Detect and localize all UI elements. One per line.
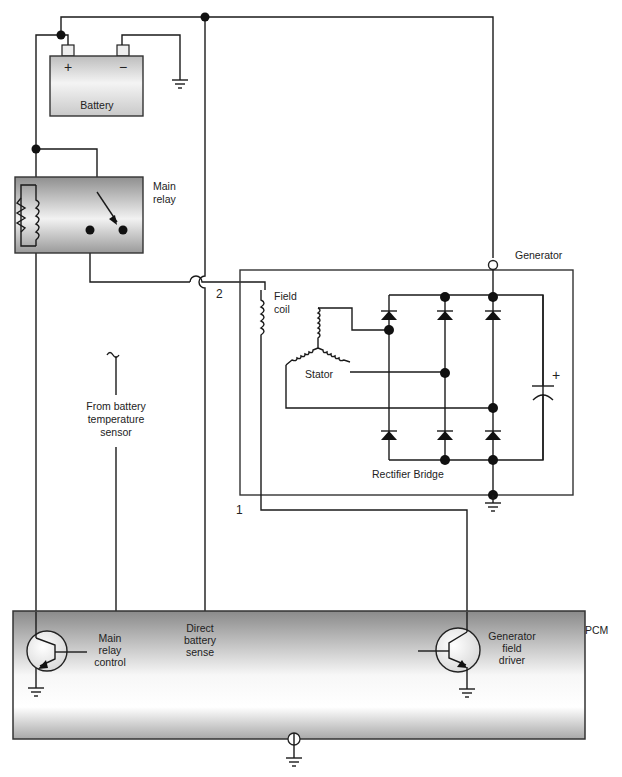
diode-icon — [437, 431, 453, 440]
direct-battery-sense-label-line2: battery — [184, 634, 217, 646]
diode-icon — [485, 431, 501, 440]
diode-icon — [381, 431, 397, 440]
junction-dot — [201, 13, 210, 22]
pcm-ground-icon — [286, 733, 302, 766]
relay-body — [15, 177, 143, 253]
generator-housing — [240, 270, 573, 495]
temp-sensor-label-line2: temperature — [88, 413, 145, 425]
generator: Generator 2 1 Field coil Stator — [216, 249, 573, 612]
capacitor-icon: + — [532, 295, 560, 460]
relay-contact — [119, 226, 128, 235]
diode-icon — [437, 311, 453, 320]
relay-contact — [86, 226, 95, 235]
generator-output-terminal[interactable] — [489, 261, 498, 270]
junction-dot — [32, 145, 41, 154]
stator-label: Stator — [305, 368, 334, 380]
pcm-module: PCM Main relay control Direct battery se… — [13, 611, 608, 766]
generator-ground-icon — [485, 495, 501, 511]
field-coil-label-line1: Field — [274, 290, 297, 302]
rectifier-bridge-label: Rectifier Bridge — [372, 468, 444, 480]
main-relay-control-label-line1: Main — [99, 632, 122, 644]
diode-icon — [485, 311, 501, 320]
junction-dot — [57, 31, 66, 40]
main-relay-label-line1: Main — [153, 180, 176, 192]
generator-field-driver-label-line2: field — [502, 642, 521, 654]
battery-positive-terminal — [62, 45, 74, 56]
pcm-label: PCM — [585, 624, 608, 636]
rectifier-bridge — [381, 270, 543, 500]
main-relay-control-label-line2: relay — [99, 644, 123, 656]
terminal-2-label: 2 — [216, 287, 223, 301]
main-relay-control-label-line3: control — [94, 656, 126, 668]
temp-sensor-label-line1: From battery — [86, 400, 146, 412]
generator-field-driver-label-line3: driver — [499, 654, 526, 666]
field-coil-icon — [261, 290, 467, 612]
generator-label: Generator — [515, 249, 563, 261]
temp-sensor-label-line3: sensor — [100, 426, 132, 438]
main-relay-label-line2: relay — [153, 193, 177, 205]
diode-icon — [381, 311, 397, 320]
main-relay: Main relay — [15, 177, 177, 253]
terminal-1-label: 1 — [236, 503, 243, 517]
generator-field-driver-label-line1: Generator — [488, 630, 536, 642]
direct-battery-sense-label-line1: Direct — [186, 622, 214, 634]
sensor-tilde-icon — [107, 353, 119, 358]
battery-label: Battery — [80, 99, 114, 111]
direct-battery-sense-wire — [199, 248, 205, 612]
schematic-canvas: + − Battery Main relay Generator 2 1 — [0, 0, 622, 777]
direct-battery-sense-label-line3: sense — [186, 646, 214, 658]
battery-plus-sign: + — [64, 59, 72, 75]
battery-negative-terminal — [117, 45, 129, 56]
battery-minus-sign: − — [119, 59, 127, 75]
field-coil-label-line2: coil — [274, 303, 290, 315]
capacitor-plus-sign: + — [552, 367, 560, 383]
battery: + − Battery — [50, 45, 143, 116]
battery-temperature-sensor: From battery temperature sensor — [86, 353, 146, 613]
